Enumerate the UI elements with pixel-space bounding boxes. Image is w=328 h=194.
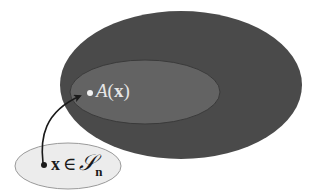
image-label: A(x)	[96, 80, 130, 102]
image-point	[87, 90, 93, 96]
element-of-symbol: ∈	[63, 154, 76, 174]
image-label-close-paren: )	[123, 80, 129, 101]
domain-label: x∈𝒮n	[51, 152, 103, 183]
domain-label-variable: x	[51, 154, 60, 174]
set-mapping-diagram	[0, 0, 328, 194]
image-label-function: A	[96, 80, 108, 101]
domain-label-set-symbol: 𝒮	[79, 150, 96, 175]
domain-label-subscript: n	[95, 164, 102, 179]
domain-point	[41, 162, 47, 168]
image-label-argument: x	[114, 80, 124, 101]
